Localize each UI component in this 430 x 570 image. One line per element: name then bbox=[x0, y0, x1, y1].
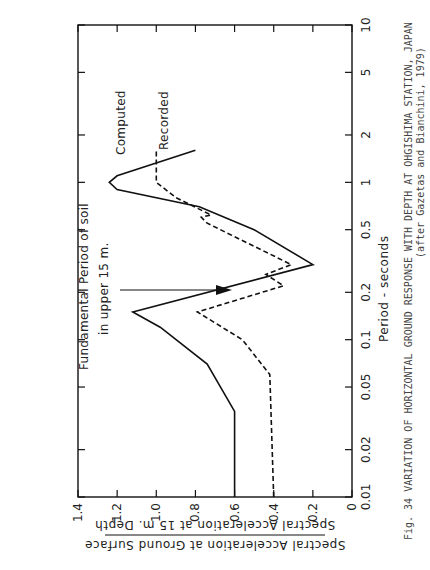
x-tick-label: 10 bbox=[359, 17, 373, 32]
svg-text:Spectral Acceleration at 15 m.: Spectral Acceleration at 15 m. Depth bbox=[95, 518, 336, 532]
x-tick-label: 2 bbox=[359, 131, 373, 139]
x-tick-label: 0.1 bbox=[359, 330, 373, 349]
rotated-figure: 0.010.020.050.10.20.51251000.20.40.60.81… bbox=[0, 0, 430, 570]
y-tick-label: 0 bbox=[345, 503, 359, 511]
figure-caption-line1: Fig. 34 VARIATION OF HORIZONTAL GROUND R… bbox=[403, 22, 414, 540]
x-tick-label: 5 bbox=[359, 69, 373, 77]
x-tick-label: 0.05 bbox=[359, 374, 373, 401]
x-tick-label: 0.5 bbox=[359, 220, 373, 239]
y-axis-title: Spectral Acceleration at Ground SurfaceS… bbox=[85, 518, 346, 552]
arrow-label-line2: in upper 15 m. bbox=[97, 242, 111, 335]
chart: 0.010.020.050.10.20.51251000.20.40.60.81… bbox=[0, 0, 430, 570]
series-recorded bbox=[109, 150, 313, 497]
x-axis-title: Period - seconds bbox=[377, 236, 391, 342]
arrow-label-line1: Fundamental Period of soil bbox=[77, 203, 91, 370]
series bbox=[109, 150, 313, 497]
y-tick-label: 1.4 bbox=[71, 503, 85, 522]
svg-text:Spectral Acceleration at Groun: Spectral Acceleration at Ground Surface bbox=[85, 538, 346, 552]
annotations: Fundamental Period of soil in upper 15 m… bbox=[77, 90, 232, 370]
figure-caption-line2: (after Gazetas and Bianchini, 1979) bbox=[415, 47, 426, 258]
x-tick-label: 0.02 bbox=[359, 436, 373, 463]
computed-label: Computed bbox=[114, 90, 128, 155]
x-tick-label: 0.01 bbox=[359, 484, 373, 511]
x-tick-label: 1 bbox=[359, 179, 373, 187]
x-tick-label: 0.2 bbox=[359, 283, 373, 302]
recorded-label: Recorded bbox=[157, 91, 171, 150]
